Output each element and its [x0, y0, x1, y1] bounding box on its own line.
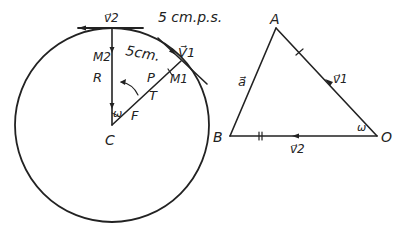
label-o: O: [381, 129, 392, 145]
label-v1-tangent: V⃗1: [178, 45, 195, 60]
label-b: B: [213, 129, 223, 145]
kinematics-figure: v⃗2 5 cm.p.s. 5cm. V⃗1 M2 M1 R P T ω F C…: [0, 0, 401, 227]
label-omega-right: ω: [357, 121, 366, 134]
velocity-triangle: A B O a⃗ v⃗1 v⃗2 ω: [213, 11, 392, 156]
side-ao: [276, 28, 377, 136]
label-omega-left: ω: [113, 107, 122, 120]
label-c: C: [105, 132, 115, 148]
label-v2-top: v⃗2: [104, 11, 119, 25]
arrow-v2: [292, 134, 299, 139]
label-radius: R: [93, 70, 102, 85]
label-p: P: [147, 70, 155, 85]
rotation-arrowhead: [120, 79, 126, 85]
label-m1: M1: [170, 72, 188, 86]
circle-diagram: v⃗2 5 cm.p.s. 5cm. V⃗1 M2 M1 R P T ω F C: [15, 9, 222, 222]
label-arc-length: 5cm.: [124, 42, 161, 64]
label-vec-a: a⃗: [238, 74, 246, 89]
label-vec-v2: v⃗2: [290, 142, 305, 156]
label-a: A: [269, 11, 280, 27]
label-m2: M2: [93, 50, 111, 64]
label-f: F: [131, 108, 139, 123]
label-speed: 5 cm.p.s.: [158, 9, 222, 25]
side-ab: [230, 28, 276, 136]
top-tangent-arrowhead: [78, 26, 86, 31]
label-vec-v1: v⃗1: [333, 72, 348, 86]
label-t: T: [149, 88, 158, 103]
